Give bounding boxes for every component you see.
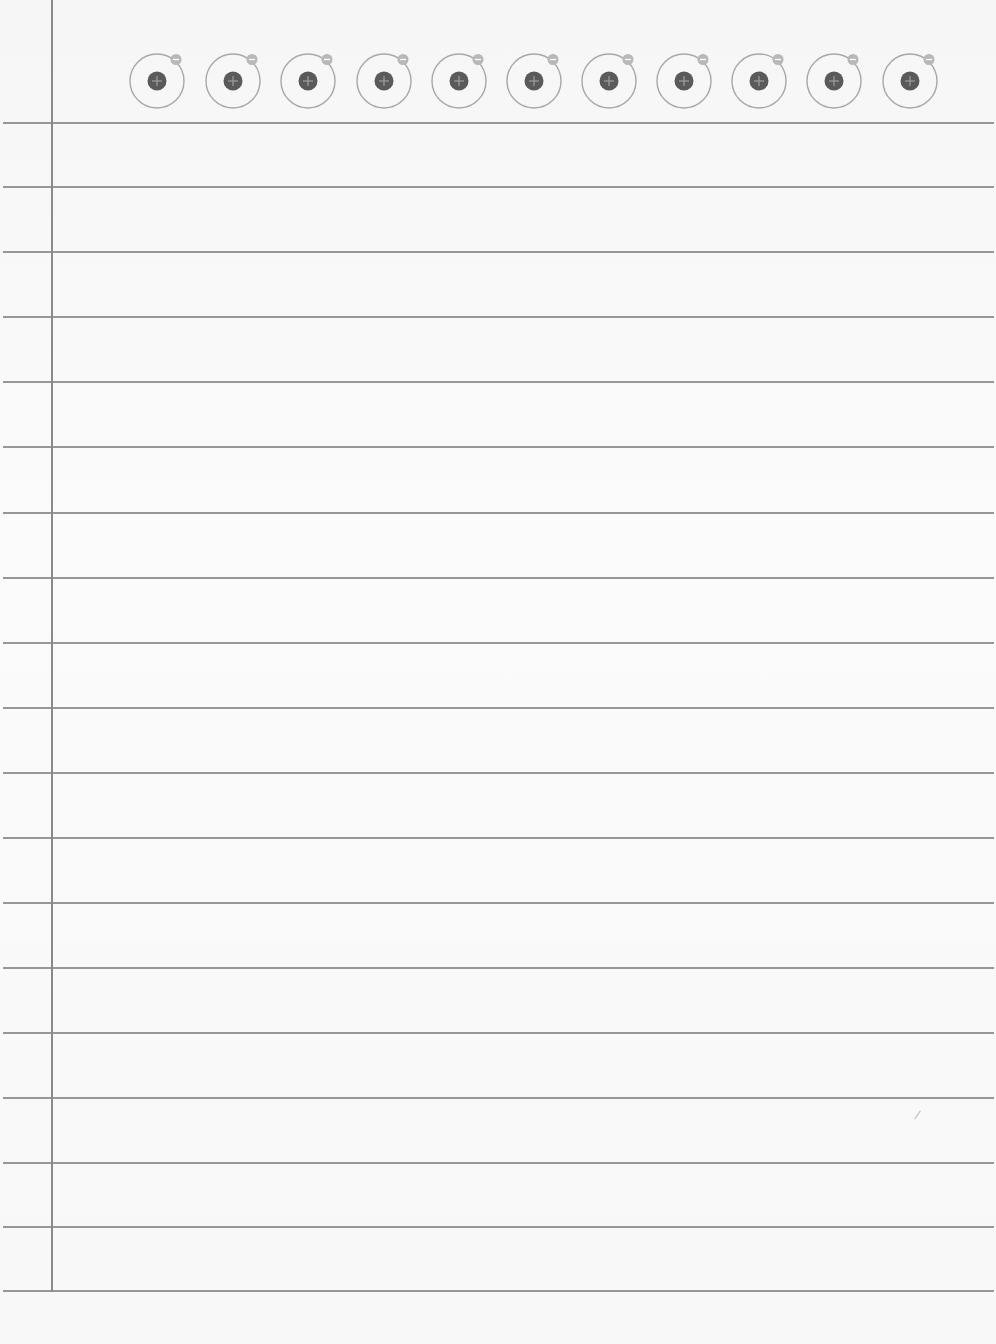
atom-icon-header — [0, 0, 996, 120]
atom-icon — [504, 51, 564, 111]
margin-line — [51, 0, 53, 1292]
ruled-line-10 — [3, 707, 994, 709]
notebook-page — [0, 0, 996, 1344]
ruled-line-17 — [3, 1162, 994, 1164]
ruled-line-5 — [3, 381, 994, 383]
ruled-line-12 — [3, 837, 994, 839]
atom-icon — [729, 51, 789, 111]
ruled-line-19 — [3, 1290, 994, 1292]
atom-icon — [429, 51, 489, 111]
ruled-line-6 — [3, 446, 994, 448]
atom-icon — [203, 51, 263, 111]
atom-icon — [127, 51, 187, 111]
ruled-line-2 — [3, 186, 994, 188]
ruled-line-13 — [3, 902, 994, 904]
ruled-line-3 — [3, 251, 994, 253]
scan-speck — [914, 1111, 921, 1120]
ruled-line-11 — [3, 772, 994, 774]
atom-icon — [804, 51, 864, 111]
atom-icon — [579, 51, 639, 111]
atom-icon — [354, 51, 414, 111]
ruled-line-8 — [3, 577, 994, 579]
atom-icon — [278, 51, 338, 111]
ruled-line-14 — [3, 967, 994, 969]
ruled-line-18 — [3, 1226, 994, 1228]
atom-icon — [880, 51, 940, 111]
ruled-line-9 — [3, 642, 994, 644]
ruled-line-15 — [3, 1032, 994, 1034]
ruled-line-7 — [3, 512, 994, 514]
ruled-line-1 — [3, 122, 994, 124]
ruled-line-4 — [3, 316, 994, 318]
ruled-line-16 — [3, 1097, 994, 1099]
atom-icon — [654, 51, 714, 111]
